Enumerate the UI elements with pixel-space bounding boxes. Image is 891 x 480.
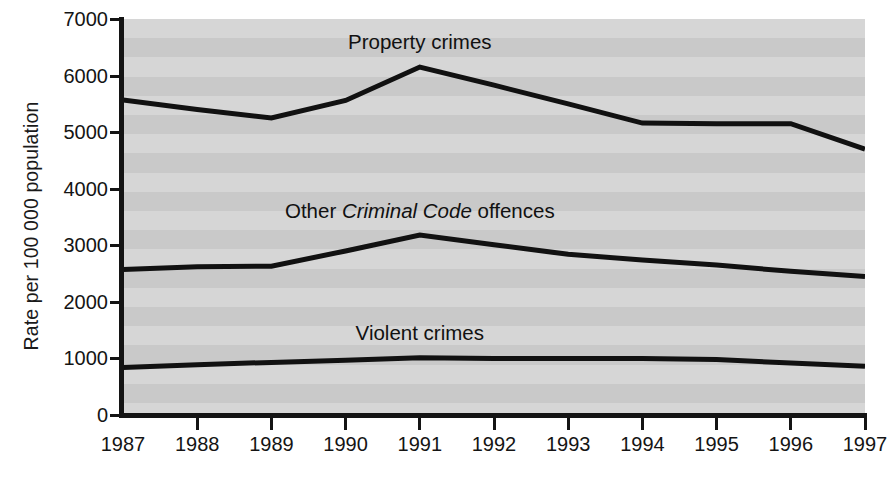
x-tick-mark <box>789 418 792 430</box>
series-label: Other Criminal Code offences <box>285 201 555 222</box>
y-axis-tick-labels: 01000200030004000500060007000 <box>30 0 108 480</box>
y-tick-label: 5000 <box>36 122 108 142</box>
y-tick-label: 4000 <box>36 179 108 199</box>
x-tick-mark <box>196 418 199 430</box>
plot-area: Property crimesOther Criminal Code offen… <box>123 19 865 415</box>
x-tick-mark <box>715 418 718 430</box>
x-axis-tick-marks <box>0 418 891 432</box>
x-tick-mark <box>270 418 273 430</box>
x-tick-mark <box>418 418 421 430</box>
y-tick-label: 7000 <box>36 9 108 29</box>
series-line <box>123 67 865 149</box>
x-tick-mark <box>567 418 570 430</box>
x-tick-mark <box>864 418 867 430</box>
x-tick-label: 1997 <box>820 432 891 456</box>
series-label: Property crimes <box>348 31 492 52</box>
y-tick-label: 6000 <box>36 66 108 86</box>
y-axis-line <box>119 17 124 417</box>
series-label: Violent crimes <box>356 323 484 344</box>
series-line <box>123 235 865 276</box>
y-tick-label: 3000 <box>36 235 108 255</box>
series-line <box>123 358 865 368</box>
x-tick-mark <box>641 418 644 430</box>
line-chart: Rate per 100 000 population 010002000300… <box>0 0 891 480</box>
y-tick-label: 1000 <box>36 348 108 368</box>
y-tick-label: 2000 <box>36 292 108 312</box>
x-tick-mark <box>344 418 347 430</box>
x-axis-tick-labels: 1987198819891990199119921993199419951996… <box>0 432 891 464</box>
x-tick-mark <box>493 418 496 430</box>
